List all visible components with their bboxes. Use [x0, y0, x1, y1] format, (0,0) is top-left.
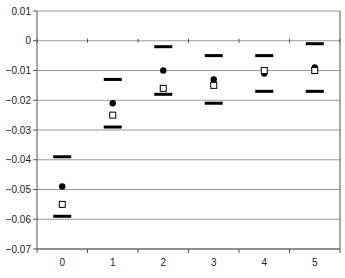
y-tick-label: −0.04 — [6, 154, 32, 165]
x-tick-label: 2 — [160, 257, 166, 268]
open-square-marker — [59, 201, 65, 207]
bound-dash-marker — [205, 102, 223, 105]
y-tick-label: 0.01 — [12, 6, 32, 17]
y-tick-label: −0.01 — [6, 65, 32, 76]
filled-circle-marker — [211, 76, 217, 82]
bound-dash-marker — [53, 215, 71, 218]
y-tick-label: −0.06 — [6, 214, 32, 225]
bound-dash-marker — [104, 126, 122, 129]
filled-circle-marker — [160, 67, 166, 73]
bound-dash-marker — [255, 54, 273, 57]
bound-dash-marker — [154, 93, 172, 96]
y-tick-label: 0 — [25, 35, 31, 46]
y-tick-label: −0.07 — [6, 244, 32, 255]
open-square-marker — [110, 112, 116, 118]
bound-dash-marker — [154, 45, 172, 48]
x-tick-label: 1 — [110, 257, 116, 268]
bound-dash-marker — [306, 42, 324, 45]
x-tick-label: 3 — [211, 257, 217, 268]
gridlines — [37, 11, 340, 249]
open-square-marker — [160, 85, 166, 91]
y-axis-tick-labels: 0.010−0.01−0.02−0.03−0.04−0.05−0.06−0.07 — [6, 6, 32, 255]
chart: 0.010−0.01−0.02−0.03−0.04−0.05−0.06−0.07… — [0, 0, 345, 278]
bound-dash-marker — [104, 78, 122, 81]
axes — [33, 11, 340, 253]
bound-dash-marker — [205, 54, 223, 57]
x-axis-tick-labels: 012345 — [59, 257, 318, 268]
x-tick-label: 4 — [261, 257, 267, 268]
bound-dash-marker — [306, 90, 324, 93]
x-tick-label: 5 — [312, 257, 318, 268]
open-square-marker — [261, 68, 267, 74]
open-square-marker — [312, 68, 318, 74]
y-tick-label: −0.05 — [6, 184, 32, 195]
filled-circle-marker — [110, 100, 116, 106]
open-square-marker — [211, 82, 217, 88]
bound-dash-marker — [255, 90, 273, 93]
x-tick-label: 0 — [59, 257, 65, 268]
y-tick-label: −0.03 — [6, 125, 32, 136]
filled-circle-marker — [59, 183, 65, 189]
bound-dash-marker — [53, 155, 71, 158]
y-tick-label: −0.02 — [6, 95, 32, 106]
